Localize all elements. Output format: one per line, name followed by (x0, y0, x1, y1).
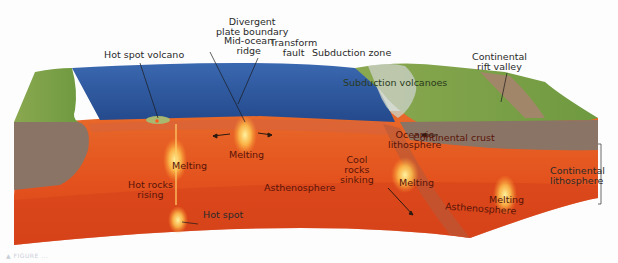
label-cool-rocks-sinking: Cool rocks sinking (340, 155, 374, 185)
label-transform-fault: Transform fault (270, 38, 317, 58)
ocean-surface (72, 63, 395, 122)
label-subduction-volcanoes: Subduction volcanoes (343, 78, 447, 88)
label-hot-spot: Hot spot (203, 210, 243, 220)
figure-caption: ▲ FIGURE ... (6, 252, 48, 259)
label-subduction-zone: Subduction zone (312, 48, 391, 58)
label-divergent-boundary: Divergent plate boundary (216, 17, 288, 37)
label-asthenosphere-center: Asthenosphere (264, 183, 335, 193)
label-continental-crust: Continental crust (413, 133, 495, 143)
label-mid-ocean-ridge: Mid-ocean ridge (224, 36, 273, 56)
left-continent (14, 68, 78, 122)
label-melting-subduction: Melting (399, 178, 434, 188)
label-hot-rocks-rising: Hot rocks rising (128, 180, 173, 200)
label-continental-lithosphere: Continental lithosphere (550, 166, 605, 186)
label-melting-ridge: Melting (229, 150, 264, 160)
label-hot-spot-volcano: Hot spot volcano (104, 50, 184, 60)
label-melting-hotspot: Melting (172, 161, 207, 171)
label-continental-rift-valley: Continental rift valley (472, 52, 527, 72)
hot-spot-glow (168, 206, 188, 234)
